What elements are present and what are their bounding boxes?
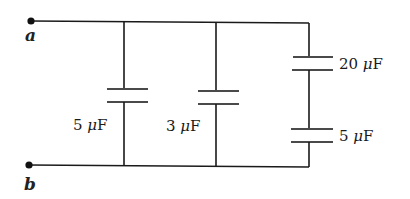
branch-3-series-capacitors: 20 μF 5 μF: [291, 23, 383, 167]
capacitor-label-c3: 20 μF: [339, 55, 383, 73]
capacitor-label-c4: 5 μF: [339, 127, 373, 145]
terminal-a-label: a: [25, 25, 36, 45]
branch-2-capacitor-3uF: 3 μF: [166, 22, 239, 167]
capacitor-label-c1: 5 μF: [73, 116, 107, 134]
bottom-wire: [29, 165, 309, 167]
top-wire: [31, 21, 309, 23]
circuit-diagram: a b 5 μF 3 μF 20 μF 5 μF: [0, 0, 410, 199]
branch-1-capacitor-5uF: 5 μF: [73, 22, 148, 166]
terminal-a-dot: [27, 17, 34, 24]
terminal-b-label: b: [24, 174, 36, 194]
terminal-b-dot: [25, 161, 32, 168]
capacitor-label-c2: 3 μF: [166, 117, 200, 135]
